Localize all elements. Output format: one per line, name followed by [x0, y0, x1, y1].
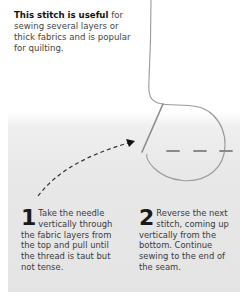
thread-icon — [147, 0, 225, 181]
needle-icon — [142, 104, 163, 152]
instruction-panel: This stitch is useful for sewing several… — [8, 0, 240, 292]
step-1: 1 Take the needle vertically through the… — [21, 208, 121, 273]
step-number: 2 — [139, 209, 154, 226]
intro-text: This stitch is useful for sewing several… — [14, 10, 132, 54]
intro-bold: This stitch is useful — [14, 10, 108, 20]
step-2: 2 Reverse the next stitch, coming up ver… — [139, 208, 237, 273]
step-number: 1 — [21, 209, 36, 226]
dashed-arrow-icon — [38, 143, 128, 196]
